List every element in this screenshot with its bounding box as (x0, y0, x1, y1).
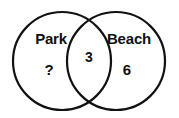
left-set-label: Park (35, 31, 67, 46)
right-set-label: Beach (107, 31, 151, 46)
venn-diagram: Park ? 3 Beach 6 (0, 0, 179, 118)
right-set-value: 6 (123, 62, 131, 77)
left-circle-park (13, 12, 111, 110)
right-circle-beach (67, 12, 165, 110)
left-set-value: ? (44, 62, 53, 77)
intersection-value: 3 (85, 50, 93, 64)
